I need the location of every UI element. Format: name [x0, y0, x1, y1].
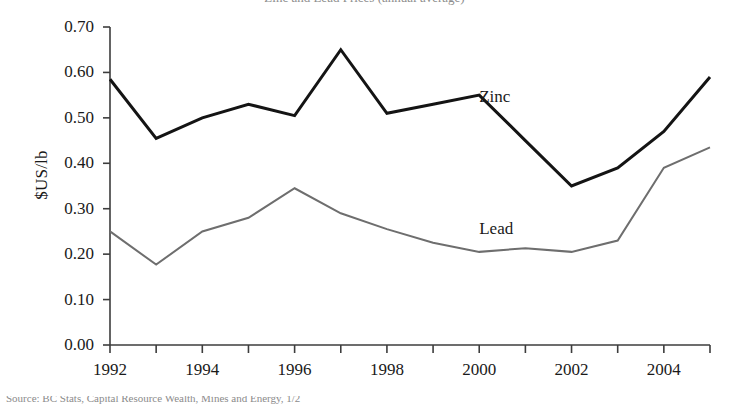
plot-area: $US/lb 0.000.100.200.300.400.500.600.70 …	[0, 0, 729, 405]
y-axis-tick-label: 0.60	[36, 63, 94, 80]
chart-figure: Zinc and Lead Prices (annual average) $U…	[0, 0, 729, 405]
x-axis-tick-label: 2004	[629, 361, 699, 378]
series-line-zinc	[110, 50, 710, 186]
x-axis-tick-label: 1996	[260, 361, 330, 378]
clipped-source-caption-text: Source: BC Stats, Capital Resource Wealt…	[6, 396, 300, 404]
x-axis-tick-label: 1992	[75, 361, 145, 378]
x-axis-tick-label: 2002	[537, 361, 607, 378]
y-axis-tick-label: 0.70	[36, 18, 94, 35]
y-axis-title: $US/lb	[32, 115, 52, 235]
clipped-source-caption: Source: BC Stats, Capital Resource Wealt…	[6, 396, 526, 405]
x-axis-tick-label: 2000	[444, 361, 514, 378]
y-axis-tick-label: 0.50	[36, 109, 94, 126]
x-axis-tick-label: 1994	[167, 361, 237, 378]
x-axis-tick-label: 1998	[352, 361, 422, 378]
y-axis-tick-label: 0.40	[36, 154, 94, 171]
y-axis-tick-label: 0.00	[36, 336, 94, 353]
series-label-lead: Lead	[479, 220, 513, 237]
y-axis-tick-label: 0.20	[36, 245, 94, 262]
y-axis-tick-label: 0.30	[36, 200, 94, 217]
line-chart-svg	[0, 0, 729, 405]
y-axis-tick-label: 0.10	[36, 291, 94, 308]
series-label-zinc: Zinc	[479, 88, 510, 105]
